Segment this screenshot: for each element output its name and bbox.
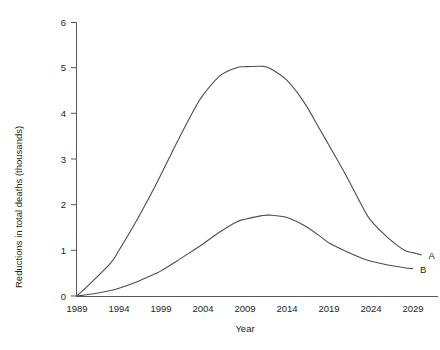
x-tick-label-2019: 2019 <box>318 303 339 314</box>
y-tick-label-4: 4 <box>61 108 66 119</box>
y-tick-label-5: 5 <box>61 62 66 73</box>
y-tick-label-0: 0 <box>61 291 66 302</box>
x-tick-label-1999: 1999 <box>150 303 171 314</box>
y-axis-ticks: 6 5 4 3 2 1 0 <box>61 17 76 302</box>
x-tick-label-2004: 2004 <box>192 303 213 314</box>
series-label-b: B <box>420 264 426 275</box>
x-tick-label-2014: 2014 <box>276 303 297 314</box>
line-chart: Reductions in total deaths (thousands) Y… <box>0 0 440 350</box>
y-axis-title: Reductions in total deaths (thousands) <box>13 126 24 288</box>
y-tick-label-1: 1 <box>61 245 66 256</box>
x-tick-label-1994: 1994 <box>108 303 129 314</box>
series-curve-b <box>77 215 413 296</box>
x-axis-ticks: 1989 1994 1999 2004 2009 2014 2019 2024 … <box>66 303 423 314</box>
y-tick-label-2: 2 <box>61 199 66 210</box>
x-tick-label-2029: 2029 <box>402 303 423 314</box>
x-tick-label-2009: 2009 <box>234 303 255 314</box>
series-curve-a <box>77 66 421 296</box>
x-axis-title: Year <box>235 323 254 334</box>
y-tick-label-6: 6 <box>61 17 66 28</box>
x-tick-label-1989: 1989 <box>66 303 87 314</box>
x-tick-label-2024: 2024 <box>360 303 381 314</box>
y-tick-label-3: 3 <box>61 154 66 165</box>
series-label-a: A <box>428 250 435 261</box>
